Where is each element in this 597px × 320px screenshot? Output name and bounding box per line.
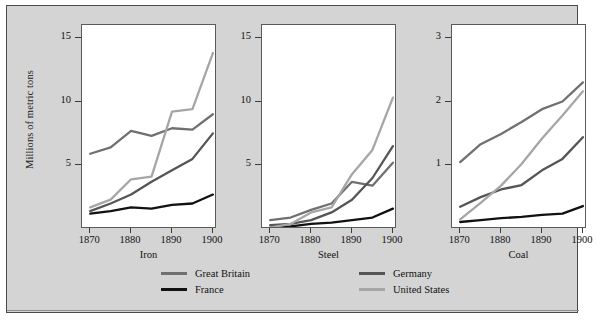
plot-area bbox=[81, 24, 216, 228]
y-tick-mark bbox=[75, 164, 81, 165]
chart-panel-iron: 510151870188018901900Iron bbox=[59, 6, 222, 264]
series-lines bbox=[452, 25, 586, 228]
line-series bbox=[90, 114, 213, 154]
plot-area bbox=[261, 24, 396, 228]
y-tick-label: 10 bbox=[221, 94, 251, 105]
panel-title: Iron bbox=[81, 249, 216, 260]
y-tick-mark bbox=[75, 37, 81, 38]
x-tick-label: 1890 bbox=[523, 234, 559, 245]
line-series bbox=[270, 146, 393, 225]
y-tick-label: 2 bbox=[411, 94, 441, 105]
x-tick-mark bbox=[392, 228, 393, 233]
line-series bbox=[460, 206, 583, 222]
y-tick-mark bbox=[445, 37, 451, 38]
y-axis-label: Millions of metric tons bbox=[24, 50, 35, 190]
x-tick-mark bbox=[310, 228, 311, 233]
x-tick-label: 1870 bbox=[441, 234, 477, 245]
series-lines bbox=[262, 25, 396, 228]
legend-item[interactable]: France bbox=[161, 284, 224, 295]
y-tick-mark bbox=[445, 101, 451, 102]
x-tick-mark bbox=[89, 228, 90, 233]
x-tick-label: 1880 bbox=[482, 234, 518, 245]
x-tick-label: 1900 bbox=[194, 234, 230, 245]
legend-color-swatch bbox=[359, 288, 385, 291]
panel-title: Steel bbox=[261, 249, 396, 260]
x-tick-label: 1900 bbox=[374, 234, 410, 245]
x-tick-label: 1880 bbox=[292, 234, 328, 245]
plot-area bbox=[451, 24, 586, 228]
x-tick-label: 1900 bbox=[564, 234, 597, 245]
y-tick-mark bbox=[255, 164, 261, 165]
figure-container: Millions of metric tons 5101518701880189… bbox=[6, 5, 578, 313]
x-tick-mark bbox=[130, 228, 131, 233]
x-tick-mark bbox=[171, 228, 172, 233]
panels-row: Millions of metric tons 5101518701880189… bbox=[7, 6, 579, 264]
y-tick-mark bbox=[255, 101, 261, 102]
line-series bbox=[460, 82, 583, 162]
x-tick-label: 1890 bbox=[333, 234, 369, 245]
x-tick-label: 1870 bbox=[71, 234, 107, 245]
x-tick-label: 1880 bbox=[112, 234, 148, 245]
y-tick-label: 1 bbox=[411, 157, 441, 168]
x-tick-mark bbox=[582, 228, 583, 233]
x-tick-mark bbox=[212, 228, 213, 233]
x-tick-label: 1870 bbox=[251, 234, 287, 245]
series-lines bbox=[82, 25, 216, 228]
y-tick-mark bbox=[75, 101, 81, 102]
line-series bbox=[90, 53, 213, 207]
y-tick-label: 3 bbox=[411, 30, 441, 41]
line-series bbox=[270, 98, 393, 228]
x-tick-mark bbox=[500, 228, 501, 233]
x-tick-mark bbox=[459, 228, 460, 233]
x-tick-label: 1890 bbox=[153, 234, 189, 245]
x-tick-mark bbox=[269, 228, 270, 233]
y-tick-label: 15 bbox=[221, 30, 251, 41]
legend-label: Great Britain bbox=[195, 268, 250, 279]
legend-divider bbox=[7, 310, 579, 311]
y-tick-mark bbox=[255, 37, 261, 38]
panel-title: Coal bbox=[451, 249, 586, 260]
legend-label: Germany bbox=[393, 268, 432, 279]
legend-item[interactable]: United States bbox=[359, 284, 449, 295]
legend-color-swatch bbox=[161, 272, 187, 275]
y-tick-label: 5 bbox=[221, 157, 251, 168]
legend-item[interactable]: Great Britain bbox=[161, 268, 250, 279]
chart-panel-coal: 1231870188018901900Coal bbox=[429, 6, 592, 264]
legend-label: France bbox=[195, 284, 224, 295]
legend-item[interactable]: Germany bbox=[359, 268, 432, 279]
x-tick-mark bbox=[541, 228, 542, 233]
x-tick-mark bbox=[351, 228, 352, 233]
legend-color-swatch bbox=[161, 288, 187, 291]
chart-legend: Great BritainFranceGermanyUnited States bbox=[7, 264, 579, 312]
y-tick-label: 15 bbox=[41, 30, 71, 41]
y-tick-label: 5 bbox=[41, 157, 71, 168]
legend-label: United States bbox=[393, 284, 449, 295]
y-tick-label: 10 bbox=[41, 94, 71, 105]
chart-panel-steel: 510151870188018901900Steel bbox=[239, 6, 402, 264]
y-tick-mark bbox=[445, 164, 451, 165]
line-series bbox=[460, 137, 583, 206]
legend-color-swatch bbox=[359, 272, 385, 275]
